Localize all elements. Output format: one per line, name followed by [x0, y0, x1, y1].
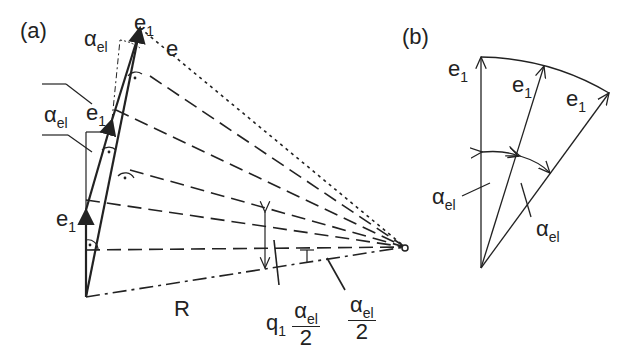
vector-e1-2	[86, 120, 112, 210]
panel-a-geometry	[42, 28, 408, 297]
alpha-half-label: αel2	[348, 294, 376, 343]
e1-label-bottom: e1	[56, 208, 76, 234]
b-alpha-el-label-right: αel	[536, 218, 560, 244]
vector-e	[86, 28, 140, 297]
e1-label-mid: e1	[86, 102, 106, 128]
b-e1-label-1: e1	[448, 58, 468, 84]
panel-a-label: (a)	[20, 20, 47, 42]
alpha-el-label-top: αel	[84, 28, 108, 54]
b-e1-label-3: e1	[566, 88, 586, 114]
e1-label-top: e1	[134, 12, 154, 38]
q1-alpha-half-label: q1 αel2	[266, 300, 320, 349]
panel-b-label: (b)	[402, 26, 429, 48]
b-e1-label-2: e1	[512, 74, 532, 100]
alpha-el-label-mid: αel	[44, 104, 68, 130]
b-alpha-el-label-left: αel	[432, 186, 456, 212]
radial-lines	[86, 28, 405, 297]
radius-label: R	[174, 298, 190, 320]
center-point	[402, 245, 408, 251]
e-label: e	[166, 38, 178, 60]
